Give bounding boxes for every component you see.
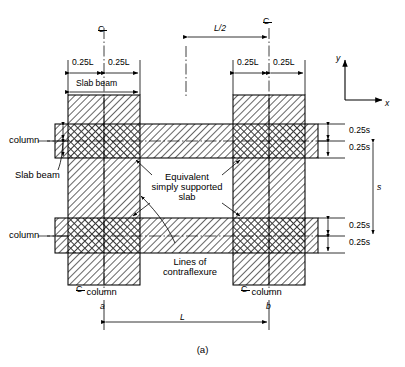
dimension-text: 0.25L	[273, 57, 295, 67]
point-a-text: a	[100, 301, 105, 311]
slab-beam-callout-text: Slab beam	[15, 169, 60, 180]
point-marker-a: a	[100, 302, 105, 311]
dimension-label-quarter-s-1: 0.25s	[349, 126, 370, 135]
dimension-label-full-L: L	[180, 313, 185, 322]
point-b-text: b	[266, 301, 271, 311]
slab-beam-dimension-text: Slab beam	[76, 78, 117, 88]
callout-slab-beam: Slab beam	[15, 170, 60, 180]
dimension-label-half-L: L/2	[214, 24, 226, 33]
dimension-text: 0.25L	[237, 57, 259, 67]
axis-label-x: x	[385, 99, 389, 108]
contraflexure-line-2: contraflexure	[140, 267, 240, 277]
x-axis-text: x	[385, 98, 389, 108]
cl-column-text: column	[87, 286, 117, 297]
dimension-text: 0.25s	[349, 220, 370, 230]
equivalent-slab-line-3: slab	[137, 192, 237, 202]
figure-caption-text: (a)	[197, 344, 209, 355]
annotation-contraflexure: Lines of contraflexure	[140, 257, 240, 277]
column-text: column	[9, 134, 39, 145]
coordinate-axes	[345, 60, 382, 100]
dimension-text: 0.25s	[349, 125, 370, 135]
dimension-full-L	[104, 300, 269, 330]
annotation-equivalent-slab: Equivalent simply supported slab	[137, 172, 237, 202]
dimension-upper-quarter-s	[318, 124, 345, 158]
dimension-label-right-quarter-L-1: 0.25L	[237, 58, 259, 67]
dimension-text: 0.25s	[349, 237, 370, 247]
dimension-label-left-quarter-L-1: 0.25L	[72, 58, 94, 67]
dimension-label-left-quarter-L-2: 0.25L	[108, 58, 130, 67]
centerline-symbol-icon: C	[76, 286, 84, 297]
label-cl-column-left: C column	[76, 286, 117, 297]
half-L-text: L/2	[214, 23, 226, 33]
point-marker-b: b	[266, 302, 271, 311]
cl-column-text: column	[252, 286, 282, 297]
dimension-label-right-quarter-L-2: 0.25L	[273, 58, 295, 67]
label-column-lower: column	[9, 230, 39, 240]
dimension-lower-quarter-s	[318, 218, 345, 253]
dimension-text: 0.25s	[349, 142, 370, 152]
full-L-text: L	[180, 312, 185, 322]
column-text: column	[9, 229, 39, 240]
centerline-symbol-right-column: C	[263, 18, 271, 29]
dimension-label-quarter-s-3: 0.25s	[349, 221, 370, 230]
dimension-label-quarter-s-2: 0.25s	[349, 143, 370, 152]
axis-label-y: y	[336, 54, 340, 63]
dimension-label-slab-beam: Slab beam	[76, 79, 117, 88]
centerline-symbol-left-column: C	[98, 26, 106, 37]
centerline-symbol-icon: C	[241, 286, 249, 297]
y-axis-text: y	[336, 53, 340, 63]
dimension-text: 0.25L	[108, 57, 130, 67]
label-column-upper: column	[9, 135, 39, 145]
s-text: s	[377, 182, 381, 192]
label-cl-column-right: C column	[241, 286, 282, 297]
dimension-label-s: s	[377, 183, 381, 192]
dimension-label-quarter-s-4: 0.25s	[349, 238, 370, 247]
dimension-text: 0.25L	[72, 57, 94, 67]
figure-caption: (a)	[0, 344, 405, 355]
